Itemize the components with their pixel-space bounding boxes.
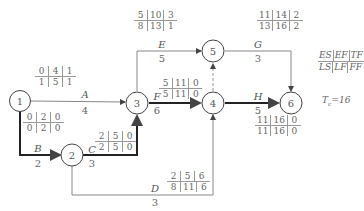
time-table-b: 020 020 — [23, 112, 64, 133]
legend-table: ESEFTF LSLFFF — [318, 50, 364, 73]
node-3: 3 — [126, 92, 148, 114]
computed-duration-label: Tc=16 — [322, 95, 350, 107]
activity-a-name: A — [80, 89, 88, 100]
svg-text:5: 5 — [210, 46, 216, 57]
activity-g-duration: 3 — [255, 53, 261, 64]
time-table-d: 256 8116 — [167, 171, 210, 192]
svg-text:1: 1 — [17, 96, 23, 107]
activity-e-name: E — [157, 39, 166, 50]
activity-g-name: G — [254, 39, 262, 50]
time-table-c: 250 250 — [95, 131, 136, 152]
node-5: 5 — [202, 40, 224, 62]
node-4: 4 — [202, 92, 224, 114]
node-2: 2 — [61, 144, 83, 166]
time-table-g: 11142 13162 — [257, 10, 303, 31]
svg-text:2: 2 — [69, 150, 75, 161]
activity-a-duration: 4 — [82, 105, 88, 116]
activity-h-name: H — [253, 91, 263, 102]
activity-e-duration: 5 — [159, 53, 165, 64]
time-table-a: 041 151 — [35, 66, 76, 87]
node-1: 1 — [10, 91, 31, 112]
activity-c-duration: 3 — [89, 158, 95, 169]
svg-text:4: 4 — [210, 98, 216, 109]
activity-d-name: D — [150, 183, 159, 194]
svg-text:3: 3 — [134, 98, 140, 109]
svg-text:6: 6 — [288, 98, 294, 109]
activity-f-duration: 6 — [154, 105, 160, 116]
time-table-e: 5103 8131 — [134, 10, 177, 31]
time-table-f: 5110 5110 — [159, 78, 202, 99]
arrow-activity-a — [30, 101, 125, 102]
node-6: 6 — [280, 92, 302, 114]
activity-b-name: B — [33, 143, 41, 154]
time-table-h: 11160 11160 — [255, 115, 301, 136]
activity-d-duration: 3 — [152, 197, 158, 208]
activity-b-duration: 2 — [35, 158, 41, 169]
